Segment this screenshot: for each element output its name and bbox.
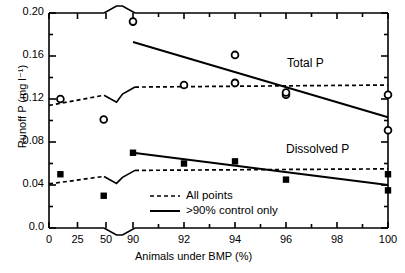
x-tick-label: 0 xyxy=(37,233,61,245)
data-point-total-p xyxy=(181,82,188,89)
data-point-total-p xyxy=(232,52,239,59)
data-point-total-p xyxy=(385,127,392,134)
data-point-dissolved-p xyxy=(130,150,136,156)
legend-label-control-only: >90% control only xyxy=(186,204,278,216)
y-axis-title: Runoff P (mg l⁻¹) xyxy=(16,47,29,167)
x-tick-label: 50 xyxy=(94,233,118,245)
data-point-total-p xyxy=(385,91,392,98)
figure-scatter-runoff-p: 0255090929496981000.00.040.080.120.160.2… xyxy=(0,0,405,273)
data-point-total-p xyxy=(283,89,290,96)
y-tick-label: 0.0 xyxy=(10,220,44,232)
trendlines-group xyxy=(49,42,388,185)
data-point-dissolved-p xyxy=(181,160,187,166)
legend-swatches xyxy=(150,196,180,211)
data-point-total-p xyxy=(130,18,137,25)
data-point-total-p xyxy=(57,96,64,103)
data-point-dissolved-p xyxy=(283,176,289,182)
x-tick-label: 92 xyxy=(172,233,196,245)
legend-label-all-points: All points xyxy=(186,189,233,201)
series-label-dissolved-p: Dissolved P xyxy=(286,142,349,156)
x-axis-title: Animals under BMP (%) xyxy=(135,250,252,262)
data-points-group xyxy=(57,18,391,199)
data-point-dissolved-p xyxy=(57,171,63,177)
data-point-dissolved-p xyxy=(101,193,107,199)
data-point-total-p xyxy=(232,79,239,86)
series-label-total-p: Total P xyxy=(287,56,324,70)
data-point-dissolved-p xyxy=(232,158,238,164)
x-tick-label: 96 xyxy=(274,233,298,245)
x-tick-label: 90 xyxy=(121,233,145,245)
x-tick-label: 25 xyxy=(66,233,90,245)
y-tick-label: 0.04 xyxy=(10,177,44,189)
data-point-dissolved-p xyxy=(385,187,391,193)
data-point-dissolved-p xyxy=(385,171,391,177)
x-tick-label: 98 xyxy=(325,233,349,245)
data-point-total-p xyxy=(100,116,107,123)
y-tick-label: 0.20 xyxy=(10,5,44,17)
x-tick-label: 100 xyxy=(376,233,400,245)
x-tick-label: 94 xyxy=(223,233,247,245)
